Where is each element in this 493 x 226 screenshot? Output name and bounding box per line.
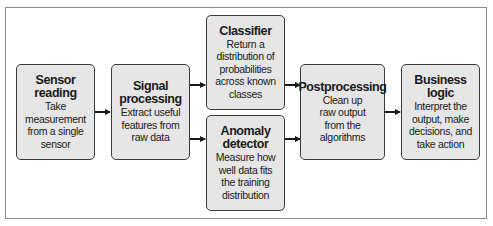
node-title: processing (119, 93, 182, 106)
node-title: Classifier (219, 25, 271, 38)
node-description: well data fits (219, 164, 273, 177)
node-title: Postprocessing (298, 81, 386, 94)
node-postprocessing: Postprocessing Clean up raw output from … (300, 64, 385, 160)
node-title: Business logic (404, 74, 477, 100)
node-description: raw data (132, 131, 170, 144)
node-description: raw output (319, 106, 365, 119)
node-description: from a single (27, 125, 83, 138)
node-title: reading (34, 87, 76, 100)
node-description: measurement (25, 113, 86, 126)
node-description: decisions, and (409, 125, 472, 138)
node-description: across known (215, 75, 276, 88)
node-description: distribution of (217, 50, 275, 63)
node-description: Interpret the (414, 100, 467, 113)
node-description: Clean up (323, 94, 363, 107)
node-description: output, make (412, 113, 469, 126)
node-description: the training (221, 176, 269, 189)
node-sensor-reading: Sensor reading Take measurement from a s… (16, 64, 95, 160)
node-description: distribution (222, 189, 269, 202)
node-signal-processing: Signal processing Extract useful feature… (111, 64, 190, 160)
node-description: sensor (41, 138, 71, 151)
node-anomaly-detector: Anomaly detector Measure how well data f… (206, 115, 285, 211)
node-description: Measure how (216, 151, 276, 164)
node-description: from the (324, 119, 360, 132)
node-title: detector (222, 138, 268, 151)
node-description: Extract useful (121, 106, 180, 119)
node-description: algorithms (320, 131, 365, 144)
node-business-logic: Business logic Interpret the output, mak… (401, 64, 480, 160)
node-description: Return a (227, 38, 265, 51)
node-description: Take (45, 100, 66, 113)
node-description: take action (417, 138, 464, 151)
node-description: classes (229, 88, 262, 101)
node-description: probabilities (219, 63, 271, 76)
node-classifier: Classifier Return a distribution of prob… (206, 15, 285, 110)
node-description: features from (122, 119, 180, 132)
